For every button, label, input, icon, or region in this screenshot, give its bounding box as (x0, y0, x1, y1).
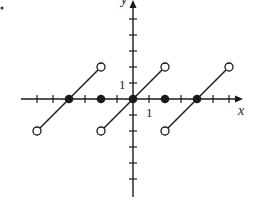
filled-circle (193, 95, 202, 104)
open-circle (161, 127, 169, 135)
filled-circle (129, 95, 138, 104)
stray-bullet-dot (1, 7, 4, 10)
y-axis-label: y (119, 0, 128, 7)
graph-plot: y x 1 1 (0, 0, 257, 200)
open-circle (161, 63, 169, 71)
x-axis-arrow-icon (235, 96, 243, 103)
open-circle (33, 127, 41, 135)
filled-circle (161, 95, 170, 104)
open-circle (97, 63, 105, 71)
filled-circle (65, 95, 74, 104)
filled-circle (97, 95, 106, 104)
open-circle (97, 127, 105, 135)
open-circle (225, 63, 233, 71)
y-tick-label-1: 1 (119, 77, 126, 92)
x-tick-label-1: 1 (146, 105, 153, 120)
y-axis-arrow-icon (130, 0, 137, 8)
x-axis-label: x (237, 103, 245, 118)
